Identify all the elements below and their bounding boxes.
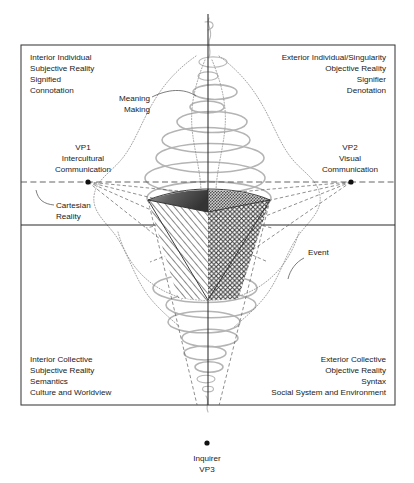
event-cone [148,189,270,300]
meaning-making-leader [152,90,196,97]
vp2-code: VP2 [342,143,358,152]
vp2-line1: Visual [339,154,361,163]
cartesian-reality-leader [36,190,54,205]
quad-tr-line2: Objective Reality [325,64,387,73]
quad-br-line3: Syntax [361,377,386,386]
quad-br-line1: Exterior Collective [321,355,387,364]
quad-tl-line4: Connotation [30,86,74,95]
vp2-dot[interactable] [348,179,353,184]
quad-bl-line1: Interior Collective [30,355,93,364]
quad-bl-line3: Semantics [30,377,68,386]
quad-tl-line3: Signified [30,75,61,84]
cartesian-reality-line1: Cartesian [56,201,91,210]
vp2-line2: Communication [322,165,378,174]
quad-bl-line2: Subjective Reality [30,366,95,375]
vp1-line2: Communication [55,165,111,174]
vp1-dot[interactable] [85,179,90,184]
vp3-code: VP3 [199,465,215,474]
quad-br-line2: Objective Reality [325,366,387,375]
quad-tr-line4: Denotation [347,86,386,95]
vp3-dot[interactable] [204,440,209,445]
vp1-line1: Intercultural [62,154,104,163]
vp3-label: Inquirer [193,454,221,463]
meaning-making-line2: Making [124,105,150,114]
event-label: Event [308,248,329,257]
quad-br-line4: Social System and Environment [271,388,386,397]
meaning-making-line1: Meaning [119,94,150,103]
quad-tr-line1: Exterior Individual/Singularity [282,53,387,62]
event-leader [288,258,304,279]
quad-tr-line3: Signifier [357,75,387,84]
quad-tl-line2: Subjective Reality [30,64,95,73]
diagram-root: Interior Individual Subjective Reality S… [0,0,414,483]
vp1-code: VP1 [75,143,91,152]
diagram-canvas: Interior Individual Subjective Reality S… [0,0,414,483]
quad-bl-line4: Culture and Worldview [30,388,111,397]
cartesian-reality-line2: Reality [56,212,82,221]
quad-tl-line1: Interior Individual [30,53,92,62]
